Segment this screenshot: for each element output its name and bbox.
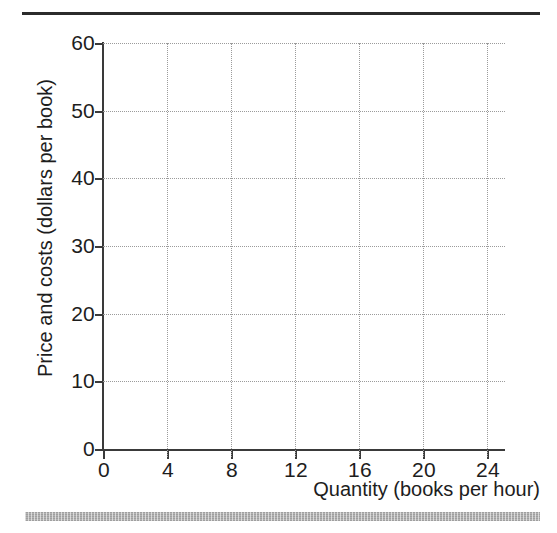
y-tick-label-60: 60 [49, 32, 95, 53]
top-divider-rule [22, 12, 540, 15]
y-axis-title: Price and costs (dollars per book) [35, 28, 55, 428]
bottom-divider-bar [25, 512, 540, 521]
data-series-layer [103, 43, 505, 457]
y-tick-60 [95, 43, 103, 45]
x-tick-label-20: 20 [394, 459, 454, 480]
x-tick-label-0: 0 [74, 459, 134, 480]
x-tick-label-12: 12 [266, 459, 326, 480]
x-tick-label-8: 8 [202, 459, 262, 480]
y-tick-20 [95, 314, 103, 316]
y-tick-40 [95, 178, 103, 180]
y-tick-50 [95, 111, 103, 113]
x-tick-label-16: 16 [330, 459, 390, 480]
x-axis-title: Quantity (books per hour) [180, 479, 540, 499]
x-tick-label-24: 24 [458, 459, 518, 480]
x-tick-label-4: 4 [138, 459, 198, 480]
figure-container: 0 10 20 30 40 50 60 0 4 8 12 16 20 24 [0, 0, 557, 533]
y-tick-label-0: 0 [49, 438, 95, 459]
y-tick-10 [95, 381, 103, 383]
plot-area [103, 43, 487, 450]
y-tick-30 [95, 246, 103, 248]
y-tick-0 [95, 449, 103, 451]
